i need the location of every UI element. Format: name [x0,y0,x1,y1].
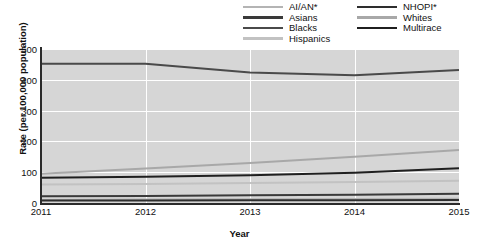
y-tick-label: 400 [3,74,37,85]
x-axis-title: Year [0,228,479,239]
line-series-nhopi [41,200,459,201]
legend-swatch-nhopi [357,6,397,8]
legend-label: AI/AN* [289,2,318,12]
line-series-asians [41,194,459,196]
gridline-vertical [459,49,460,203]
legend-item: Asians [243,13,330,23]
legend-swatch-asians [243,16,283,18]
x-tick-label: 2012 [135,206,156,217]
y-tick-label: 200 [3,136,37,147]
legend-swatch-multirace [357,27,397,29]
legend-label: Whites [403,13,432,23]
x-tick-label: 2015 [448,206,469,217]
legend-item: Multirace [357,23,442,33]
y-tick-label: 500 [3,44,37,55]
legend-label: Multirace [403,23,442,33]
line-series-hispanics [41,181,459,185]
legend-label: Hispanics [289,34,330,44]
plot-area [41,49,459,203]
chart-figure: AI/AN*AsiansBlacksHispanics NHOPI*Whites… [0,0,479,245]
legend-column-2: NHOPI*WhitesMultirace [357,2,442,34]
legend-item: Whites [357,13,442,23]
x-axis-line [40,203,460,205]
legend-item: AI/AN* [243,2,330,12]
legend-label: NHOPI* [403,2,437,12]
series-lines [41,49,459,203]
x-tick-label: 2013 [239,206,260,217]
x-tick-label: 2014 [344,206,365,217]
legend-item: Hispanics [243,34,330,44]
chart-legend: AI/AN*AsiansBlacksHispanics NHOPI*Whites… [243,2,477,42]
legend-swatch-hispanics [243,37,283,39]
legend-label: Blacks [289,23,317,33]
y-tick-label: 100 [3,167,37,178]
legend-item: NHOPI* [357,2,442,12]
legend-swatch-whites [357,16,397,18]
legend-column-1: AI/AN*AsiansBlacksHispanics [243,2,330,44]
legend-swatch-blacks [243,27,283,29]
x-tick-label: 2011 [31,206,51,217]
legend-label: Asians [289,13,318,23]
legend-item: Blacks [243,23,330,33]
legend-swatch-aian [243,6,283,8]
y-tick-label: 300 [3,105,37,116]
y-axis-line [40,47,42,205]
line-series-blacks [41,64,459,75]
